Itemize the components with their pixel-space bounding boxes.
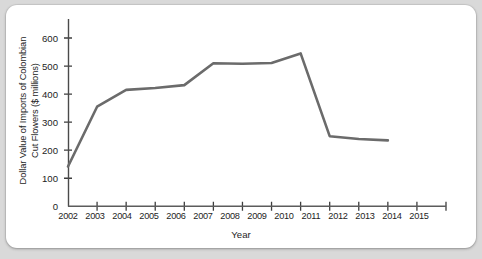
plot-area: [6, 5, 476, 248]
line-chart-figure: Dollar Value of Imports of Colombian Cut…: [6, 5, 476, 248]
data-series-line: [68, 53, 388, 166]
chart-card: Dollar Value of Imports of Colombian Cut…: [6, 5, 476, 248]
gridlines: [69, 38, 445, 178]
